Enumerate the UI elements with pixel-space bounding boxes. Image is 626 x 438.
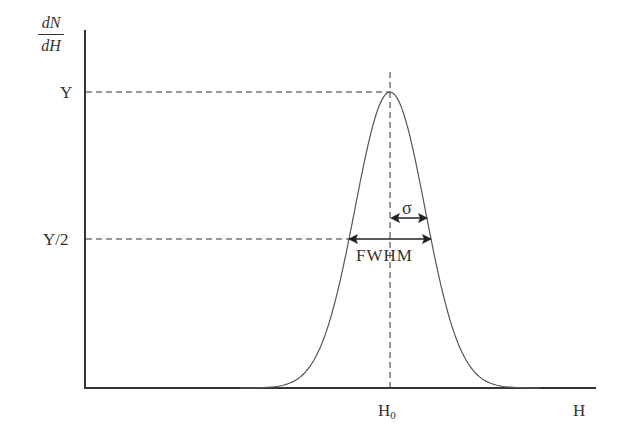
y-peak-label: Y — [60, 84, 72, 101]
h0-sub: 0 — [390, 409, 396, 421]
y-label-numerator: dN — [38, 14, 64, 34]
y-axis-label: dN dH — [38, 14, 64, 55]
x-center-label: H0 — [378, 402, 396, 421]
sigma-label: σ — [402, 199, 412, 217]
y-label-denominator: dH — [38, 35, 64, 55]
x-axis-label: H — [573, 402, 585, 419]
h0-main: H — [378, 401, 390, 420]
y-half-label: Y/2 — [43, 231, 69, 248]
fwhm-label: FWHM — [356, 247, 413, 264]
diagram-canvas — [0, 0, 626, 438]
